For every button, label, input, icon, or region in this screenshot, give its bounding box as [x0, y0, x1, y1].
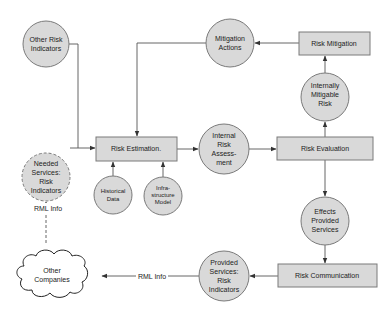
node-infrastructure-model[interactable]: Infra- structure Model	[144, 177, 182, 215]
svg-text:ment: ment	[216, 159, 232, 166]
node-provided-services[interactable]: Provided Services: Risk Indicators	[199, 251, 249, 301]
svg-text:Companies: Companies	[34, 276, 70, 284]
svg-text:Indicators: Indicators	[31, 45, 62, 52]
svg-text:Effects: Effects	[314, 208, 336, 215]
svg-text:Mitigation: Mitigation	[215, 35, 245, 43]
svg-text:Risk: Risk	[39, 178, 53, 185]
svg-text:Model: Model	[155, 199, 171, 205]
svg-text:Risk Communication: Risk Communication	[295, 272, 359, 279]
node-other-risk-indicators[interactable]: Other Risk Indicators	[23, 21, 69, 67]
node-historical-data[interactable]: Historical Data	[94, 176, 132, 214]
svg-text:Data: Data	[107, 196, 120, 202]
svg-text:Risk: Risk	[217, 277, 231, 284]
svg-text:Services:: Services:	[210, 268, 239, 275]
svg-text:Internally: Internally	[311, 82, 340, 90]
svg-text:Actions: Actions	[219, 44, 242, 51]
svg-text:Infra-: Infra-	[156, 185, 170, 191]
node-risk-estimation[interactable]: Risk Estimation.	[96, 137, 177, 161]
svg-text:Internal: Internal	[212, 132, 236, 139]
svg-text:Other: Other	[43, 267, 61, 274]
rml-info-vertical-label: RML Info	[34, 205, 62, 212]
svg-text:Risk Mitigation: Risk Mitigation	[311, 40, 357, 48]
risk-management-diagram: RML Info RML Info Other Risk Indicators …	[0, 0, 390, 313]
node-internally-mitigable-risk[interactable]: Internally Mitigable Risk	[301, 73, 349, 121]
node-risk-evaluation[interactable]: Risk Evaluation	[277, 137, 373, 160]
svg-text:Needed: Needed	[34, 160, 59, 167]
svg-text:Historical: Historical	[101, 188, 126, 194]
svg-text:Risk Estimation.: Risk Estimation.	[111, 145, 161, 152]
svg-text:Indicators: Indicators	[209, 286, 240, 293]
node-internal-risk-assessment[interactable]: Internal Risk Assess- ment	[199, 124, 249, 174]
svg-text:Risk: Risk	[318, 100, 332, 107]
svg-text:Services: Services	[312, 226, 339, 233]
svg-text:Risk Evaluation: Risk Evaluation	[301, 145, 349, 152]
svg-text:Provided: Provided	[311, 217, 339, 224]
svg-text:Risk: Risk	[217, 141, 231, 148]
node-effects-provided-services[interactable]: Effects Provided Services	[301, 197, 349, 245]
edge-mitigation-actions-to-estimation	[137, 43, 206, 136]
rml-info-horizontal-label: RML Info	[138, 273, 166, 280]
svg-text:Assess-: Assess-	[212, 150, 238, 157]
node-risk-mitigation[interactable]: Risk Mitigation	[299, 32, 370, 55]
svg-text:Mitigable: Mitigable	[311, 91, 339, 99]
svg-text:Indicators: Indicators	[31, 187, 62, 194]
node-mitigation-actions[interactable]: Mitigation Actions	[206, 19, 254, 67]
node-needed-services[interactable]: Needed Services: Risk Indicators	[22, 153, 70, 201]
node-risk-communication[interactable]: Risk Communication	[278, 264, 377, 287]
svg-text:Services:: Services:	[32, 169, 61, 176]
edge-other-risk-to-estimation	[69, 44, 95, 148]
svg-text:Other Risk: Other Risk	[29, 36, 63, 43]
svg-text:structure: structure	[151, 192, 175, 198]
svg-text:Provided: Provided	[210, 259, 238, 266]
node-other-companies[interactable]: Other Companies	[17, 250, 88, 297]
